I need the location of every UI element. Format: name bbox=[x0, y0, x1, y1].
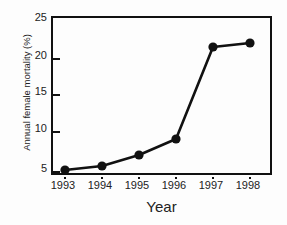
x-tick-label-1996: 1996 bbox=[154, 180, 194, 191]
data-markers bbox=[60, 38, 254, 174]
y-tick-label-15: 15 bbox=[17, 86, 47, 97]
y-tick-label-10: 10 bbox=[17, 123, 47, 134]
x-tick-marks bbox=[65, 177, 250, 179]
y-tick-label-25: 25 bbox=[17, 12, 47, 23]
x-axis-label: Year bbox=[51, 198, 272, 215]
x-tick-label-1994: 1994 bbox=[80, 180, 120, 191]
y-tick-label-5: 5 bbox=[17, 163, 47, 174]
x-tick-label-1995: 1995 bbox=[117, 180, 157, 191]
data-point-1998 bbox=[245, 38, 254, 47]
x-tick-label-1998: 1998 bbox=[228, 180, 268, 191]
x-tick-label-1993: 1993 bbox=[43, 180, 83, 191]
data-point-1995 bbox=[134, 150, 143, 159]
data-point-1996 bbox=[171, 134, 180, 143]
plot-svg bbox=[51, 16, 276, 179]
data-point-1994 bbox=[97, 161, 106, 170]
chart-figure: Annual female mortality (%) 25 20 15 10 … bbox=[0, 0, 287, 225]
y-tick-label-20: 20 bbox=[17, 50, 47, 61]
data-line bbox=[65, 43, 250, 170]
data-point-1993 bbox=[60, 165, 69, 174]
y-tick-marks bbox=[53, 59, 60, 172]
data-point-1997 bbox=[208, 42, 217, 51]
plot-area bbox=[51, 16, 272, 175]
x-tick-label-1997: 1997 bbox=[191, 180, 231, 191]
